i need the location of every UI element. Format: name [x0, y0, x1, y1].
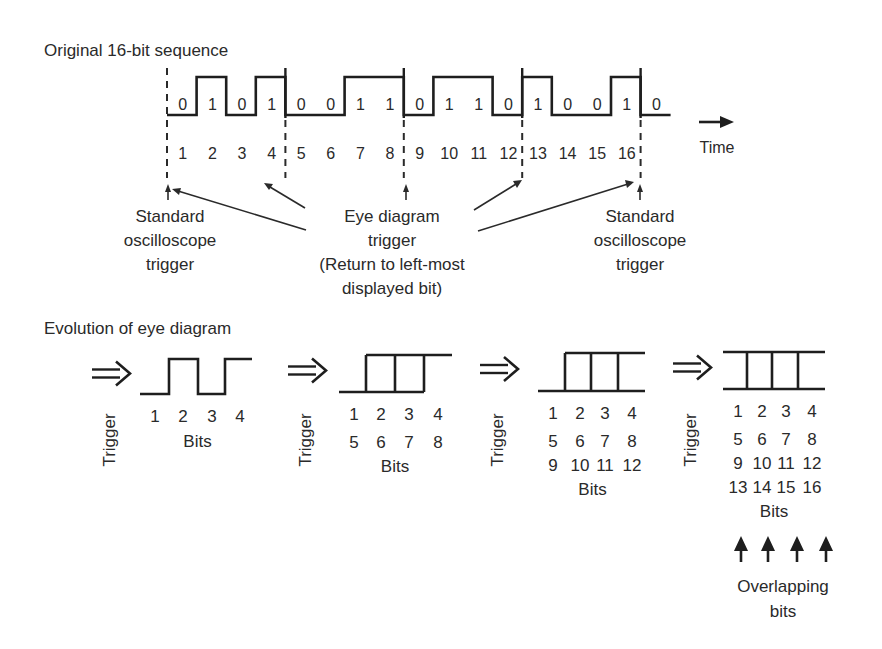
left-standard-trigger-label: Standard oscilloscope trigger [124, 207, 217, 274]
arrow-head-icon [172, 188, 181, 195]
stage-bit-label: 3 [600, 404, 609, 423]
bottom-title: Evolution of eye diagram [44, 319, 231, 338]
bit-value-label: 1 [208, 96, 217, 113]
bits-label: Bits [381, 457, 409, 476]
svg-text:Standard: Standard [136, 207, 205, 226]
stage-bit-label: 9 [733, 454, 742, 473]
bit-value-label: 1 [445, 96, 454, 113]
arrow-head-icon [625, 180, 634, 188]
stage-bit-label: 10 [571, 456, 590, 475]
trigger-label: Trigger [488, 413, 507, 467]
svg-text:Standard: Standard [606, 207, 675, 226]
stage-bit-label: 7 [404, 433, 413, 452]
bit-value-label: 0 [563, 96, 572, 113]
stage-bit-label: 12 [623, 456, 642, 475]
stage-bit-label: 12 [803, 454, 822, 473]
stage-bit-label: 11 [777, 454, 795, 473]
up-arrow-icon [761, 536, 775, 562]
up-arrow-icon [790, 536, 804, 562]
eye-trace [538, 353, 645, 391]
bit-value-label: 1 [474, 96, 483, 113]
bit-value-label: 0 [593, 96, 602, 113]
evolution-stage: Trigger1234Bits [92, 359, 252, 467]
stage-bit-label: 7 [781, 430, 790, 449]
stage-bit-label: 2 [178, 407, 187, 426]
bit-number-label: 8 [386, 145, 395, 162]
stage-bit-label: 13 [729, 478, 748, 497]
svg-text:(Return to left-most: (Return to left-most [319, 255, 465, 274]
svg-text:trigger: trigger [616, 255, 665, 274]
trigger-label: Trigger [681, 413, 700, 467]
time-arrow-icon [699, 116, 734, 128]
bit-number-label: 5 [297, 145, 306, 162]
arrow-head-icon [165, 184, 171, 192]
bit-number-label: 9 [415, 145, 424, 162]
top-title: Original 16-bit sequence [44, 41, 228, 60]
stage-bit-label: 7 [600, 432, 609, 451]
svg-text:displayed bit): displayed bit) [342, 279, 442, 298]
stage-bit-label: 6 [757, 430, 766, 449]
bit-number-label: 12 [500, 145, 518, 162]
eye-trace [339, 355, 452, 392]
stage-bit-label: 5 [733, 430, 742, 449]
stage-bit-label: 1 [349, 405, 358, 424]
evolution-stage: Trigger123456789101112Bits [480, 353, 645, 499]
stage-bit-label: 6 [376, 433, 385, 452]
double-arrow-icon [480, 357, 518, 381]
bit-value-label: 1 [356, 96, 365, 113]
double-arrow-icon [92, 362, 130, 386]
stage-bit-label: 4 [433, 405, 442, 424]
bit-number-labels: 12345678910111213141516 [178, 145, 635, 162]
bit-value-label: 0 [652, 96, 661, 113]
eye-diagram-trigger-label: Eye diagram trigger (Return to left-most… [319, 207, 465, 298]
trigger-label: Trigger [100, 413, 119, 467]
arrow-head-icon [513, 180, 522, 188]
overlap-label-line1: Overlapping [737, 577, 829, 596]
stage-bit-label: 5 [349, 433, 358, 452]
up-arrow-icon [734, 536, 748, 562]
bit-number-label: 7 [356, 145, 365, 162]
stage-bit-label: 8 [627, 432, 636, 451]
bit-value-label: 1 [622, 96, 631, 113]
bit-number-label: 3 [238, 145, 247, 162]
evolution-stages: Trigger1234BitsTrigger12345678BitsTrigge… [92, 352, 825, 521]
stage-bit-label: 8 [433, 433, 442, 452]
up-arrow-icon [819, 536, 833, 562]
stage-bit-label: 2 [575, 404, 584, 423]
bit-value-label: 1 [534, 96, 543, 113]
eye-diagram-figure: Original 16-bit sequence 010100110110100… [0, 0, 882, 649]
bit-number-label: 14 [559, 145, 577, 162]
stage-bit-label: 4 [627, 404, 636, 423]
eye-trace [140, 359, 252, 394]
right-standard-trigger-label: Standard oscilloscope trigger [594, 207, 687, 274]
bit-value-label: 1 [267, 96, 276, 113]
bit-value-label: 0 [504, 96, 513, 113]
svg-text:trigger: trigger [146, 255, 195, 274]
stage-bit-label: 3 [781, 402, 790, 421]
evolution-stage: Trigger12345678910111213141516Bits [673, 352, 825, 521]
bit-value-label: 0 [238, 96, 247, 113]
arrow-head-icon [403, 184, 409, 192]
stage-bit-label: 3 [207, 407, 216, 426]
bit-value-label: 0 [415, 96, 424, 113]
bit-number-label: 11 [470, 145, 487, 162]
overlap-label-line2: bits [770, 602, 796, 621]
svg-text:Eye diagram: Eye diagram [344, 207, 439, 226]
bit-value-label: 1 [386, 96, 395, 113]
bit-value-label: 0 [178, 96, 187, 113]
stage-bit-label: 1 [548, 404, 557, 423]
stage-bit-label: 8 [807, 430, 816, 449]
stage-bit-label: 1 [733, 402, 742, 421]
stage-bit-label: 2 [757, 402, 766, 421]
arrow-head-icon [264, 183, 273, 190]
svg-text:trigger: trigger [368, 231, 417, 250]
stage-bit-label: 4 [235, 407, 244, 426]
eye-trace [723, 352, 825, 389]
bit-number-label: 2 [208, 145, 217, 162]
bit-value-label: 0 [326, 96, 335, 113]
arrow-head-icon [637, 184, 643, 192]
stage-bit-label: 6 [575, 432, 584, 451]
bit-number-label: 6 [326, 145, 335, 162]
overlap-arrows [734, 536, 833, 562]
bit-number-label: 13 [529, 145, 547, 162]
